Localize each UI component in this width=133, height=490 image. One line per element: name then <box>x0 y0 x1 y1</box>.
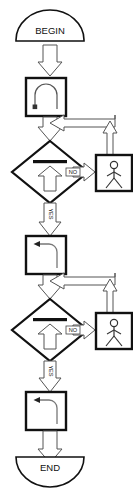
begin-label: BEGIN <box>35 25 65 36</box>
branch-label-yes-2: YES <box>48 365 54 376</box>
node-end[interactable]: END <box>16 457 84 487</box>
node-action-1[interactable] <box>96 155 132 191</box>
branch-label-no-1: NO <box>69 169 78 175</box>
process-3-box <box>26 392 66 430</box>
node-begin[interactable]: BEGIN <box>16 10 84 41</box>
node-action-2[interactable] <box>96 313 132 349</box>
node-process-1[interactable] <box>26 78 66 116</box>
end-label: END <box>40 462 60 473</box>
node-process-2[interactable] <box>26 236 66 274</box>
edge-decision1-yes: YES <box>39 203 61 236</box>
flowchart-diagram: BEGIN <box>0 0 133 490</box>
edge-begin-to-process1 <box>38 45 62 76</box>
process-2-box <box>26 236 66 274</box>
edge-decision2-yes: YES <box>39 361 61 392</box>
down-arrow-icon <box>38 45 62 76</box>
branch-label-no-2: NO <box>69 327 78 333</box>
flowchart-canvas: BEGIN <box>0 0 133 490</box>
branch-label-yes-1: YES <box>48 208 54 219</box>
node-process-3[interactable] <box>26 392 66 430</box>
